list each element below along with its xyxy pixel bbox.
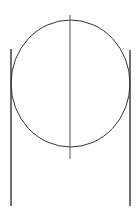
background [0,0,137,219]
diagram-canvas [0,0,137,219]
